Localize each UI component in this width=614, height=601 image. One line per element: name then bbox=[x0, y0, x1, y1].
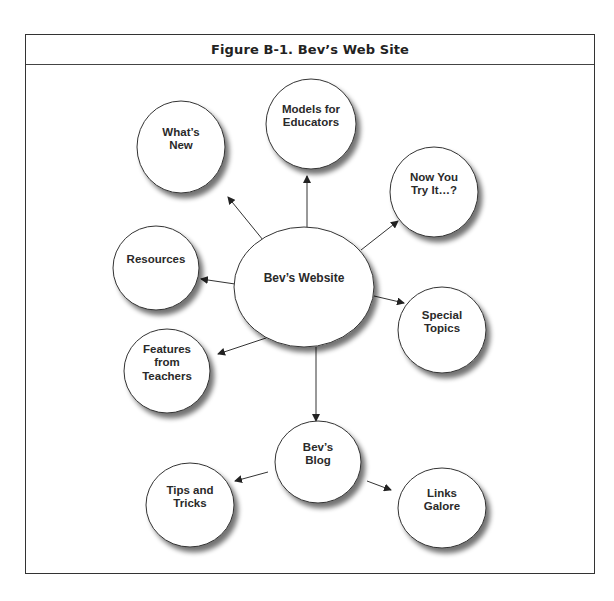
bubble-label-models: Models for Educators bbox=[266, 71, 356, 161]
bubble-label-now-you: Now You Try It…? bbox=[390, 139, 478, 229]
bubble-label-tips: Tips and Tricks bbox=[146, 455, 234, 539]
bubble-label-blog: Bev’s Blog bbox=[275, 413, 361, 495]
arrow-center-to-features bbox=[218, 338, 266, 354]
arrow-blog-to-tips bbox=[235, 472, 268, 481]
arrow-center-to-resources bbox=[201, 279, 235, 284]
bubble-label-links: Links Galore bbox=[398, 460, 486, 540]
bubble-label-resources: Resources bbox=[113, 218, 199, 302]
bubble-label-whats-new: What’s New bbox=[137, 93, 225, 185]
bubble-label-center: Bev’s Website bbox=[234, 219, 374, 339]
bubble-label-features: Features from Teachers bbox=[124, 321, 210, 405]
arrow-blog-to-links bbox=[367, 481, 391, 490]
bubble-label-special: Special Topics bbox=[398, 279, 486, 365]
